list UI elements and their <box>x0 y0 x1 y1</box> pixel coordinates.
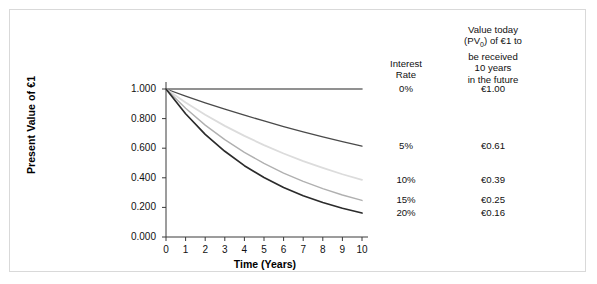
legend-header-rate-line1: Interest <box>390 58 422 69</box>
x-tick-label: 0 <box>156 245 176 255</box>
y-tick-label: 0.600 <box>114 143 156 153</box>
legend-header-value-line3: be received <box>468 51 518 62</box>
legend-header-value-line2: (PV0) of €1 to <box>464 35 522 46</box>
x-tick-label: 4 <box>234 245 254 255</box>
y-tick-label: 1.000 <box>114 84 156 94</box>
x-tick-label: 7 <box>293 245 313 255</box>
legend-header-value-line1: Value today <box>468 24 518 35</box>
legend-rate-0pct: 0% <box>378 84 434 94</box>
x-tick-label: 2 <box>195 245 215 255</box>
legend-rate-15pct: 15% <box>378 195 434 205</box>
pv-prefix: (PV <box>464 35 480 46</box>
x-tick-label: 1 <box>176 245 196 255</box>
legend-value-10pct: €0.39 <box>434 175 552 185</box>
legend-rate-20pct: 20% <box>378 208 434 218</box>
legend-header-value-line4: 10 years <box>475 62 512 73</box>
pv-suffix: ) of €1 to <box>484 35 522 46</box>
legend-value-15pct: €0.25 <box>434 195 552 205</box>
x-tick-label: 8 <box>313 245 333 255</box>
legend-header-value-today: Value today (PV0) of €1 to be received 1… <box>434 24 552 85</box>
x-tick-label: 5 <box>254 245 274 255</box>
x-tick-label: 9 <box>332 245 352 255</box>
y-tick-label: 0.000 <box>114 232 156 242</box>
series-layer <box>166 89 362 213</box>
x-axis-title: Time (Years) <box>155 258 375 270</box>
y-tick-label: 0.200 <box>114 202 156 212</box>
y-axis-title: Present Value of €1 <box>25 50 37 200</box>
x-tick-label: 10 <box>352 245 372 255</box>
x-tick-label: 3 <box>215 245 235 255</box>
legend-value-20pct: €0.16 <box>434 208 552 218</box>
legend-rate-10pct: 10% <box>378 175 434 185</box>
legend-value-5pct: €0.61 <box>434 141 552 151</box>
axis-layer <box>162 82 368 241</box>
y-tick-label: 0.800 <box>114 114 156 124</box>
x-tick-label: 6 <box>274 245 294 255</box>
legend-value-0pct: €1.00 <box>434 84 552 94</box>
y-tick-label: 0.400 <box>114 173 156 183</box>
chart-page: Present Value of €1 Time (Years) 0.0000.… <box>0 0 597 284</box>
legend: Interest Rate Value today (PV0) of €1 to… <box>378 12 583 227</box>
legend-rate-5pct: 5% <box>378 141 434 151</box>
legend-header-rate-line2: Rate <box>396 69 416 80</box>
legend-header-interest-rate: Interest Rate <box>378 58 434 81</box>
series-line-10pct <box>166 89 362 180</box>
